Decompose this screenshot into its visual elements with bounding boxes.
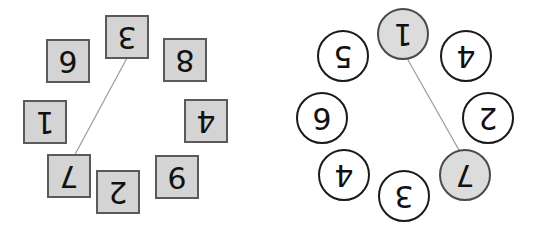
node-label: 7: [455, 160, 474, 190]
graph-node-4[interactable]: 4: [184, 99, 228, 143]
graph-node-3[interactable]: 3: [105, 15, 149, 59]
graph-node-3[interactable]: 3: [378, 170, 430, 222]
graph-node-5[interactable]: 5: [317, 30, 369, 82]
node-label: 1: [393, 19, 412, 49]
node-label: 2: [108, 177, 127, 207]
node-label: 6: [58, 46, 77, 76]
node-label: 9: [167, 162, 186, 192]
graph-node-4[interactable]: 4: [440, 30, 492, 82]
node-label: 6: [312, 103, 331, 133]
node-label: 4: [196, 106, 215, 136]
graph-node-1[interactable]: 1: [23, 100, 67, 144]
node-label: 3: [394, 181, 413, 211]
graph-node-2[interactable]: 2: [462, 92, 514, 144]
graph-node-9[interactable]: 9: [155, 155, 199, 199]
graph-node-7[interactable]: 7: [439, 149, 491, 201]
figure-canvas: 38492716 14273465: [0, 0, 557, 235]
node-label: 2: [478, 103, 497, 133]
node-label: 3: [117, 22, 136, 52]
graph-node-6[interactable]: 6: [296, 92, 348, 144]
node-label: 8: [175, 45, 194, 75]
left-panel-square-ring: 38492716: [0, 0, 278, 235]
graph-node-1[interactable]: 1: [377, 8, 429, 60]
node-label: 4: [334, 160, 353, 190]
graph-node-2[interactable]: 2: [96, 170, 140, 214]
graph-node-7[interactable]: 7: [47, 154, 91, 198]
graph-node-4[interactable]: 4: [318, 149, 370, 201]
graph-node-8[interactable]: 8: [163, 38, 207, 82]
node-label: 1: [35, 107, 54, 137]
node-label: 4: [456, 41, 475, 71]
graph-node-6[interactable]: 6: [46, 39, 90, 83]
right-panel-circle-ring: 14273465: [278, 0, 557, 235]
node-label: 5: [333, 41, 352, 71]
node-label: 7: [59, 161, 78, 191]
